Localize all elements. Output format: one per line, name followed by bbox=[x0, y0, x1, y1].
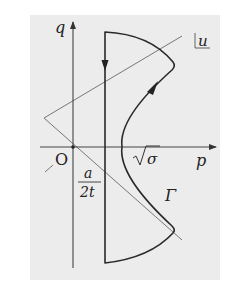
p-axis-label: p bbox=[196, 151, 206, 170]
gamma-label: Γ bbox=[164, 186, 177, 205]
fraction-numerator: a bbox=[84, 165, 92, 181]
contour-diagram: u q p O a 2t σ Γ bbox=[0, 0, 232, 306]
origin-label: O bbox=[55, 150, 68, 169]
fraction-denominator: 2t bbox=[79, 184, 95, 200]
q-axis-label: q bbox=[55, 18, 65, 37]
u-label: u bbox=[198, 32, 208, 50]
sigma-label: σ bbox=[147, 150, 158, 168]
origin-point bbox=[71, 145, 75, 149]
